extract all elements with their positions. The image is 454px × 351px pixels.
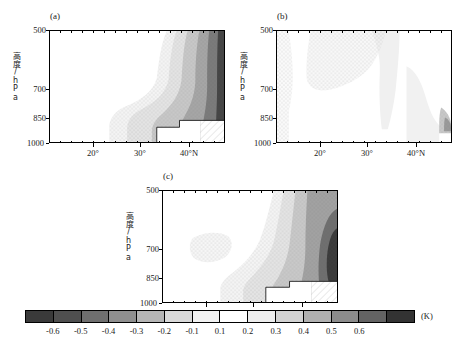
panel-c-ytick-mark-700 — [159, 249, 162, 250]
panel-b-ytick-mark-500 — [273, 30, 276, 31]
panel-a-contour-field — [50, 31, 224, 142]
axis-minor-tick — [159, 141, 160, 144]
panel-c-label: (c) — [163, 171, 173, 181]
panel-b-ytick-mark-850 — [273, 118, 276, 119]
colorbar-swatch-12 — [359, 311, 387, 322]
colorbar-tick--0.2: -0.2 — [158, 326, 171, 336]
panel-b-ytick-850: 850 — [247, 113, 273, 123]
axis-minor-tick — [181, 141, 182, 144]
colorbar-tick--0.5: -0.5 — [74, 326, 87, 336]
axis-minor-tick — [375, 141, 376, 144]
axis-minor-tick — [309, 141, 310, 144]
axis-minor-tick — [181, 30, 182, 33]
panel-a-xtick-mark-30 — [140, 143, 141, 147]
axis-minor-tick — [375, 30, 376, 33]
axis-minor-tick — [386, 30, 387, 33]
panel-c-ytick-mark-500 — [159, 190, 162, 191]
axis-minor-tick — [261, 190, 262, 193]
colorbar-swatch-2 — [82, 311, 110, 322]
axis-minor-tick — [298, 30, 299, 33]
axis-minor-tick — [430, 141, 431, 144]
panel-c-ytick-700: 700 — [133, 244, 159, 254]
axis-minor-tick — [441, 141, 442, 144]
axis-minor-tick — [203, 30, 204, 33]
colorbar-tick-0.2: 0.2 — [243, 326, 254, 336]
panel-b-xtick-mark-40 — [416, 143, 417, 147]
axis-minor-tick — [320, 30, 321, 33]
colorbar-unit-label: (K) — [421, 311, 433, 321]
colorbar-swatch-13 — [387, 311, 414, 322]
colorbar-tick-0.4: 0.4 — [298, 326, 309, 336]
axis-minor-tick — [104, 30, 105, 33]
colorbar-swatch-4 — [137, 311, 165, 322]
panel-c-ytick-mark-850 — [159, 278, 162, 279]
colorbar: (K) -0.6-0.5-0.4-0.3-0.2-0.10.10.20.30.4… — [0, 300, 454, 351]
colorbar-swatch-0 — [26, 311, 54, 322]
colorbar-tick--0.3: -0.3 — [130, 326, 143, 336]
colorbar-tick--0.6: -0.6 — [46, 326, 59, 336]
axis-minor-tick — [206, 190, 207, 193]
axis-minor-tick — [82, 141, 83, 144]
axis-minor-tick — [305, 190, 306, 193]
axis-minor-tick — [309, 30, 310, 33]
colorbar-tick-0.3: 0.3 — [270, 326, 281, 336]
panel-b-ytick-500: 500 — [247, 25, 273, 35]
axis-minor-tick — [353, 141, 354, 144]
axis-minor-tick — [192, 30, 193, 33]
colorbar-swatch-1 — [54, 311, 82, 322]
axis-minor-tick — [316, 190, 317, 193]
colorbar-swatches — [25, 310, 415, 323]
panel-c-contour-field — [163, 191, 337, 302]
colorbar-swatch-11 — [332, 311, 360, 322]
panel-a-xtick-40: 40°N — [180, 148, 198, 158]
axis-minor-tick — [342, 30, 343, 33]
panel-a-ytick-mark-850 — [46, 118, 49, 119]
axis-minor-tick — [342, 141, 343, 144]
axis-minor-tick — [93, 141, 94, 144]
axis-minor-tick — [60, 30, 61, 33]
axis-minor-tick — [148, 30, 149, 33]
axis-minor-tick — [364, 30, 365, 33]
panel-a-xtick-20: 20° — [87, 148, 99, 158]
axis-minor-tick — [71, 141, 72, 144]
axis-minor-tick — [419, 141, 420, 144]
panel-c-ytick-500: 500 — [133, 185, 159, 195]
colorbar-swatch-9 — [276, 311, 304, 322]
axis-minor-tick — [192, 141, 193, 144]
panel-a-ytick-mark-700 — [46, 89, 49, 90]
axis-minor-tick — [327, 190, 328, 193]
panel-a-xtick-mark-20 — [93, 143, 94, 147]
axis-minor-tick — [159, 30, 160, 33]
panel-b-ylabel: 高度/hPa — [237, 52, 248, 112]
colorbar-tick--0.1: -0.1 — [185, 326, 198, 336]
axis-minor-tick — [287, 141, 288, 144]
axis-minor-tick — [60, 141, 61, 144]
panel-b-xtick-mark-30 — [367, 143, 368, 147]
axis-minor-tick — [272, 190, 273, 193]
axis-minor-tick — [320, 141, 321, 144]
axis-minor-tick — [104, 141, 105, 144]
axis-minor-tick — [283, 190, 284, 193]
axis-minor-tick — [148, 141, 149, 144]
axis-minor-tick — [287, 30, 288, 33]
axis-minor-tick — [71, 30, 72, 33]
axis-minor-tick — [126, 30, 127, 33]
axis-minor-tick — [441, 30, 442, 33]
panel-b-ytick-mark-1000 — [273, 143, 276, 144]
panel-c-plot-area — [162, 190, 338, 303]
axis-minor-tick — [137, 141, 138, 144]
axis-minor-tick — [408, 141, 409, 144]
panel-b-xtick-20: 20° — [314, 148, 326, 158]
colorbar-swatch-5 — [165, 311, 193, 322]
panel-b-plot-area — [276, 30, 452, 143]
axis-minor-tick — [250, 190, 251, 193]
axis-minor-tick — [214, 30, 215, 33]
axis-minor-tick — [408, 30, 409, 33]
colorbar-tick-0.5: 0.5 — [326, 326, 337, 336]
panel-a-ytick-mark-500 — [46, 30, 49, 31]
panel-a-ylabel: 高度/hPa — [10, 52, 21, 112]
axis-minor-tick — [82, 30, 83, 33]
panel-a-ytick-700: 700 — [20, 84, 46, 94]
axis-minor-tick — [353, 30, 354, 33]
panel-b-label: (b) — [277, 11, 288, 21]
